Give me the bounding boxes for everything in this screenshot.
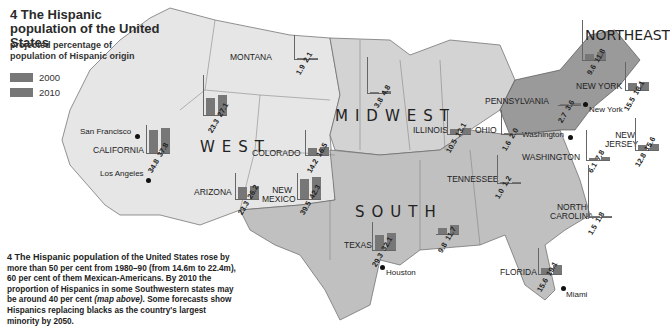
legend-item-2010: 2010 bbox=[10, 85, 60, 99]
state-label-north-carolina: NORTH CAROLINA bbox=[550, 203, 587, 221]
caption: 4 The Hispanic population of the United … bbox=[7, 252, 237, 327]
state-label-texas: TEXAS bbox=[344, 241, 372, 250]
city-los-angeles: Los Angeles bbox=[100, 169, 144, 178]
city-miami: Miami bbox=[566, 290, 587, 299]
state-label-ohio: OHIO bbox=[475, 126, 497, 135]
state-label-arizona: ARIZONA bbox=[194, 188, 232, 197]
state-label-florida: FLORIDA bbox=[500, 268, 537, 277]
state-label-washington: WASHINGTON bbox=[522, 153, 580, 162]
city-dot-washington bbox=[568, 135, 573, 140]
city-houston: Houston bbox=[386, 268, 416, 277]
state-label-montana: MONTANA bbox=[230, 53, 272, 62]
region-label-south: SOUTH bbox=[355, 203, 443, 221]
legend-item-2000: 2000 bbox=[10, 70, 60, 84]
state-label-colorado: COLORADO bbox=[252, 149, 301, 158]
state-label-illinois: ILLINOIS bbox=[413, 126, 448, 135]
state-label-tennessee: TENNESSEE bbox=[447, 175, 499, 184]
city-dot-houston bbox=[380, 265, 385, 270]
map-subtitle: projected percentage of population of Hi… bbox=[10, 40, 160, 62]
legend-swatch-2010 bbox=[10, 88, 33, 97]
state-label-california: CALIFORNIA bbox=[93, 146, 144, 155]
city-dot-miami bbox=[561, 286, 566, 291]
legend: 2000 2010 bbox=[10, 70, 60, 100]
city-dot-new-york bbox=[583, 102, 588, 107]
state-label-new-york: NEW YORK bbox=[576, 82, 622, 91]
state-label-pennsylvania: PENNSYLVANIA bbox=[485, 97, 549, 106]
city-dot-san-francisco bbox=[135, 134, 140, 139]
legend-swatch-2000 bbox=[10, 73, 33, 82]
region-label-midwest: MIDWEST bbox=[335, 107, 456, 125]
city-washington: Washington bbox=[522, 130, 564, 139]
city-dot-los-angeles bbox=[146, 178, 151, 183]
city-san-francisco: San Francisco bbox=[80, 127, 131, 136]
city-new-york: New York bbox=[589, 105, 623, 114]
state-label-new-mexico: NEW MEXICO bbox=[262, 186, 292, 204]
